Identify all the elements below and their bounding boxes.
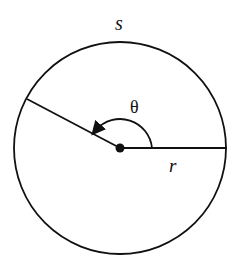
circle-diagram: s θ r [0, 0, 241, 267]
angle-arc [96, 119, 152, 148]
radius-label: r [169, 155, 177, 176]
arc-length-label: s [115, 12, 123, 34]
angle-label: θ [130, 97, 139, 117]
center-point [116, 144, 125, 153]
terminal-side-line [27, 99, 120, 148]
